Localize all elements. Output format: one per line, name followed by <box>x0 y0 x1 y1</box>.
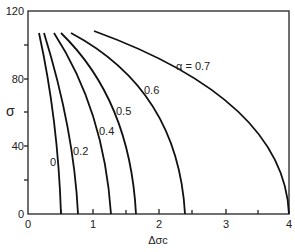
curve-alpha-0 <box>39 33 61 214</box>
y-tick-80: 80 <box>12 73 24 85</box>
x-tick-4: 4 <box>286 218 292 230</box>
y-tick-0: 0 <box>18 208 24 220</box>
x-tick-labels: 0 1 2 3 4 <box>25 218 292 230</box>
x-tick-3: 3 <box>223 218 229 230</box>
x-tick-2: 2 <box>156 218 162 230</box>
x-tick-1: 1 <box>90 218 96 230</box>
x-axis-label: Δσc <box>148 234 168 246</box>
label-alpha-0.4: 0.4 <box>99 125 114 137</box>
label-alpha-0: 0 <box>50 156 56 168</box>
label-alpha-0.5: 0.5 <box>116 105 131 117</box>
x-tick-0: 0 <box>25 218 31 230</box>
curve-alpha-0.7 <box>94 31 289 214</box>
y-tick-40: 40 <box>12 140 24 152</box>
label-alpha-0.2: 0.2 <box>73 145 88 157</box>
chart: 120 80 40 0 0 1 2 3 4 σ Δσc 0 0.2 0.4 0.… <box>0 0 295 252</box>
y-axis-label: σ <box>6 103 15 119</box>
label-alpha-0.7: α = 0.7 <box>176 60 210 72</box>
curves <box>39 31 289 214</box>
curve-alpha-0.2 <box>44 33 78 214</box>
curve-alpha-0.5 <box>61 33 136 214</box>
curve-alpha-0.6 <box>71 33 185 214</box>
curve-alpha-0.4 <box>54 33 111 214</box>
y-tick-120: 120 <box>6 5 24 17</box>
label-alpha-0.6: 0.6 <box>144 84 159 96</box>
